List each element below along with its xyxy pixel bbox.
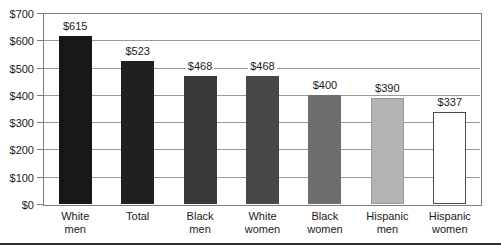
- bar-value-label-wrap: $400: [293, 79, 357, 92]
- bar-value-label: $615: [61, 20, 89, 32]
- category-label-line: women: [291, 223, 359, 236]
- y-axis-tick: [37, 40, 43, 41]
- y-axis-tick: [37, 95, 43, 96]
- bar-value-label: $468: [186, 60, 214, 72]
- figure-bottom-rule: [0, 243, 501, 245]
- y-axis-tick-label: $100: [0, 172, 34, 184]
- category-label: Blackwomen: [291, 210, 359, 236]
- y-axis-tick-label: $500: [0, 63, 34, 75]
- category-label-line: White: [229, 210, 297, 223]
- y-axis-tick-label: $200: [0, 144, 34, 156]
- bar: [246, 76, 279, 204]
- category-label-line: Total: [104, 210, 172, 223]
- y-axis-tick-label: $400: [0, 90, 34, 102]
- y-axis-tick-label: $300: [0, 117, 34, 129]
- category-label: Whitewomen: [229, 210, 297, 236]
- bar-value-label: $468: [248, 60, 276, 72]
- bar: [184, 76, 217, 204]
- y-axis-tick: [37, 13, 43, 14]
- category-label: Blackmen: [166, 210, 234, 236]
- category-label-line: Black: [166, 210, 234, 223]
- bar-value-label-wrap: $390: [355, 82, 419, 95]
- category-label-line: women: [416, 223, 484, 236]
- category-label-line: Black: [291, 210, 359, 223]
- bar-chart-figure: $0$100$200$300$400$500$600$700$615Whitem…: [0, 0, 501, 251]
- category-label: Hispanicwomen: [416, 210, 484, 236]
- bar-value-label-wrap: $468: [168, 60, 232, 73]
- category-label: Hispanicmen: [353, 210, 421, 236]
- y-axis-tick: [37, 68, 43, 69]
- category-label-line: Hispanic: [353, 210, 421, 223]
- bar: [121, 61, 154, 204]
- bar-value-label-wrap: $615: [43, 20, 107, 33]
- y-axis-tick-label: $700: [0, 8, 34, 20]
- bar: [433, 112, 466, 204]
- y-axis-tick-label: $600: [0, 35, 34, 47]
- category-label-line: White: [41, 210, 109, 223]
- y-axis-tick-label: $0: [0, 199, 34, 211]
- bar-value-label-wrap: $468: [231, 60, 295, 73]
- bar-value-label-wrap: $337: [418, 96, 482, 109]
- bar-value-label: $337: [436, 96, 464, 108]
- category-label-line: men: [166, 223, 234, 236]
- category-label-line: men: [353, 223, 421, 236]
- category-label: Whitemen: [41, 210, 109, 236]
- category-label-line: Hispanic: [416, 210, 484, 223]
- category-label-line: men: [41, 223, 109, 236]
- y-axis-tick: [37, 149, 43, 150]
- y-axis-tick: [37, 122, 43, 123]
- bar-value-label: $390: [373, 82, 401, 94]
- bar-value-label: $400: [311, 79, 339, 91]
- bar-value-label: $523: [123, 45, 151, 57]
- y-axis-tick: [37, 177, 43, 178]
- y-axis-tick: [37, 204, 43, 205]
- bar-value-label-wrap: $523: [106, 45, 170, 58]
- bar: [59, 36, 92, 204]
- bar: [308, 95, 341, 204]
- category-label-line: women: [229, 223, 297, 236]
- bar: [371, 98, 404, 204]
- category-label: Total: [104, 210, 172, 223]
